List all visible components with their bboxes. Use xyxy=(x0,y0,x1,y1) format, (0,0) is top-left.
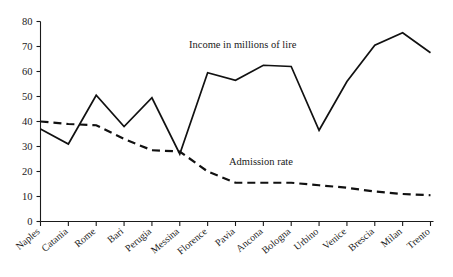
x-category-label: Perugia xyxy=(123,225,154,253)
y-tick-label: 0 xyxy=(27,216,32,227)
y-tick-label: 60 xyxy=(22,66,33,77)
chart-container: 01020304050607080 NaplesCataniaRomeBariP… xyxy=(0,0,453,277)
x-category-label: Venice xyxy=(320,225,348,251)
x-category-label: Catania xyxy=(39,225,70,253)
series-line-1 xyxy=(41,33,431,154)
x-category-label: Brescia xyxy=(346,225,376,253)
y-tick-label: 40 xyxy=(22,116,33,127)
x-category-label: Bari xyxy=(105,225,125,245)
x-category-label: Milan xyxy=(379,226,404,250)
series-annotations: Income in millions of lireAdmission rate xyxy=(189,39,297,167)
x-axis-ticks xyxy=(41,222,431,227)
y-axis-ticks: 01020304050607080 xyxy=(22,16,41,227)
y-tick-label: 80 xyxy=(22,16,33,27)
series-annotation-1: Income in millions of lire xyxy=(189,39,297,50)
x-category-label: Rome xyxy=(72,225,98,249)
x-category-label: Trento xyxy=(405,226,432,251)
y-tick-label: 70 xyxy=(22,41,33,52)
axes xyxy=(41,22,434,222)
x-category-label: Florence xyxy=(175,225,209,256)
y-tick-label: 50 xyxy=(22,91,33,102)
line-chart: 01020304050607080 NaplesCataniaRomeBariP… xyxy=(0,0,453,277)
x-category-label: Bologna xyxy=(259,225,292,256)
data-series-group xyxy=(41,33,431,196)
y-tick-label: 30 xyxy=(22,141,33,152)
y-tick-label: 10 xyxy=(22,191,33,202)
y-tick-label: 20 xyxy=(22,166,33,177)
series-annotation-2: Admission rate xyxy=(229,156,293,167)
x-category-label: Urbino xyxy=(292,226,321,253)
category-labels: NaplesCataniaRomeBariPerugiaMessinaFlore… xyxy=(13,225,431,256)
x-category-label: Naples xyxy=(13,226,41,252)
